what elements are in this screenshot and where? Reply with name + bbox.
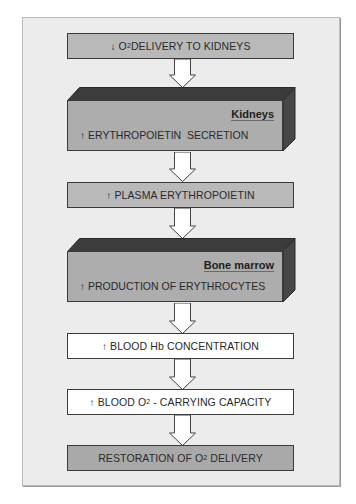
flow-arrow-icon	[169, 59, 196, 88]
step-plasma-erythropoietin: ↑ PLASMA ERYTHROPOIETIN	[67, 182, 294, 208]
up-arrow-icon: ↑	[106, 190, 111, 201]
flow-arrow-icon	[169, 415, 196, 446]
step-label: - CARRYING CAPACITY	[150, 396, 271, 408]
flow-arrow-icon	[169, 152, 196, 182]
block-front-face: Bone marrow ↑PRODUCTION OF ERYTHROCYTES	[67, 251, 283, 302]
step-blood-o2-carrying-capacity: ↑ BLOOD O2 - CARRYING CAPACITY	[67, 389, 294, 415]
step-label: BLOOD Hb CONCENTRATION	[110, 340, 259, 352]
up-arrow-icon: ↑	[80, 281, 85, 292]
step-o2-delivery-to-kidneys: ↓ O2 DELIVERY TO KIDNEYS	[67, 33, 294, 59]
step-restoration-of-o2-delivery: RESTORATION OF O2 DELIVERY	[67, 445, 294, 471]
flow-arrow-icon	[169, 359, 196, 390]
organ-label-bone-marrow: Bone marrow	[204, 259, 274, 272]
step-blood-hb-concentration: ↑ BLOOD Hb CONCENTRATION	[67, 333, 294, 359]
step-label-prefix: O	[119, 40, 127, 52]
bone-marrow-block: Bone marrow ↑PRODUCTION OF ERYTHROCYTES	[67, 238, 295, 303]
flow-arrow-icon	[169, 208, 196, 239]
organ-label-kidneys: Kidneys	[231, 108, 274, 121]
step-erythropoietin-secretion: ↑ERYTHROPOIETIN SECRETION	[80, 129, 248, 141]
step-label-prefix: RESTORATION OF O	[98, 452, 203, 464]
step-production-of-erythrocytes: ↑PRODUCTION OF ERYTHROCYTES	[80, 280, 265, 292]
flow-arrow-icon	[169, 303, 196, 334]
step-label: PRODUCTION OF ERYTHROCYTES	[88, 280, 265, 292]
down-arrow-icon: ↓	[111, 41, 116, 52]
step-label: DELIVERY TO KIDNEYS	[131, 40, 251, 52]
step-label: PLASMA ERYTHROPOIETIN	[114, 189, 254, 201]
up-arrow-icon: ↑	[80, 130, 85, 141]
step-label-prefix: BLOOD O	[98, 396, 147, 408]
step-label: DELIVERY	[207, 452, 263, 464]
kidneys-block: Kidneys ↑ERYTHROPOIETIN SECRETION	[67, 87, 295, 152]
block-front-face: Kidneys ↑ERYTHROPOIETIN SECRETION	[67, 100, 283, 151]
step-label: ERYTHROPOIETIN SECRETION	[88, 129, 248, 141]
up-arrow-icon: ↑	[102, 341, 107, 352]
up-arrow-icon: ↑	[90, 397, 95, 408]
